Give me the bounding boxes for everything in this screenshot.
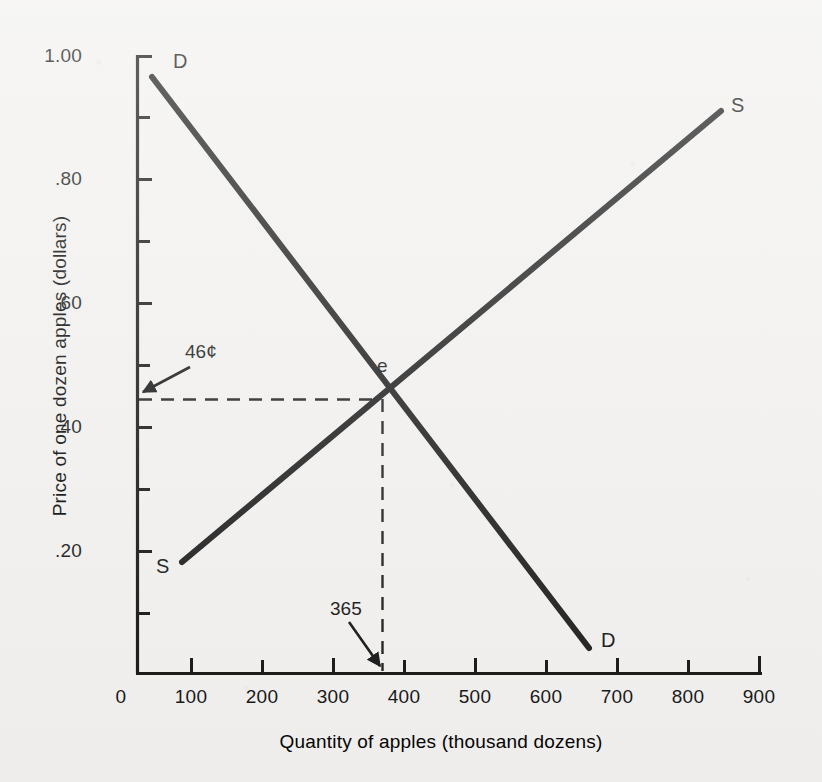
chart-plot-area	[0, 0, 822, 782]
price-annotation-arrow	[143, 367, 190, 392]
supply-curve-top-label: S	[731, 94, 744, 117]
x-tick-label-800: 800	[658, 686, 718, 708]
y-axis-ticks	[137, 57, 152, 614]
supply-curve	[182, 111, 721, 562]
y-axis-title: Price of one dozen apples (dollars)	[49, 156, 71, 576]
supply-demand-figure: 1.00 .80 .60 .40 .20 0 100 200 300 400 5…	[0, 0, 822, 782]
demand-curve-bottom-label: D	[601, 629, 615, 652]
x-tick-label-600: 600	[516, 686, 576, 708]
x-tick-label-400: 400	[374, 686, 434, 708]
x-tick-label-700: 700	[587, 686, 647, 708]
equilibrium-point-label: e	[377, 355, 388, 377]
y-tick-label-0.40: .40	[12, 416, 82, 438]
x-axis-ticks	[192, 656, 760, 673]
supply-curve-bottom-label: S	[156, 555, 169, 578]
y-tick-label-0.60: .60	[12, 292, 82, 314]
y-tick-label-0.20: .20	[12, 540, 82, 562]
x-tick-label-900: 900	[729, 686, 789, 708]
axis-lines	[136, 55, 762, 674]
demand-curve-top-label: D	[173, 50, 187, 73]
equilibrium-guides	[139, 399, 383, 671]
x-tick-label-100: 100	[161, 686, 221, 708]
x-tick-label-200: 200	[232, 686, 292, 708]
y-tick-label-1.00: 1.00	[12, 45, 82, 67]
x-tick-label-300: 300	[303, 686, 363, 708]
equilibrium-price-annotation: 46¢	[185, 341, 217, 363]
x-axis-title: Quantity of apples (thousand dozens)	[111, 731, 771, 753]
x-tick-label-0: 0	[91, 686, 151, 708]
x-tick-label-500: 500	[445, 686, 505, 708]
quantity-annotation-arrow	[349, 622, 380, 666]
y-tick-label-0.80: .80	[12, 168, 82, 190]
equilibrium-quantity-annotation: 365	[330, 598, 362, 620]
demand-curve	[152, 77, 589, 648]
